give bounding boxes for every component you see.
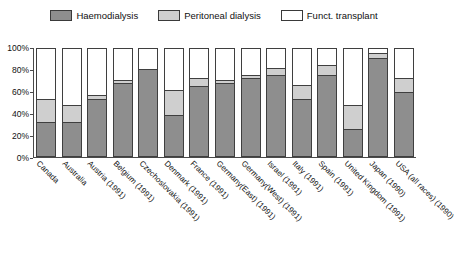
stacked-bar — [215, 48, 235, 157]
bar-segment-peritoneal-dialysis — [190, 78, 208, 87]
bar-segment-haemodialysis — [37, 122, 55, 156]
y-axis-tick-label: 40% — [12, 109, 29, 119]
stacked-bar — [62, 48, 82, 157]
y-axis-tick-label: 0% — [17, 153, 29, 163]
bar-segment-haemodialysis — [190, 86, 208, 156]
stacked-bar — [36, 48, 56, 157]
stacked-bar — [317, 48, 337, 157]
x-axis-label: Australia — [60, 159, 88, 187]
x-axis-labels: CanadaAustraliaAustria (1991)Belgium (19… — [33, 159, 416, 257]
y-axis-tick-label: 80% — [12, 65, 29, 75]
bar-segment-haemodialysis — [369, 58, 387, 156]
bar-segment-haemodialysis — [344, 129, 362, 156]
bar-segment-haemodialysis — [242, 78, 260, 156]
stacked-bar — [368, 48, 388, 157]
y-axis-tick-label: 100% — [7, 43, 29, 53]
bar-segment-haemodialysis — [318, 75, 336, 156]
stacked-bar — [164, 48, 184, 157]
bar-segment-peritoneal-dialysis — [395, 78, 413, 92]
bar-group — [34, 48, 416, 157]
legend-item-label: Haemodialysis — [76, 10, 138, 21]
legend-swatch-haemodialysis — [50, 10, 72, 21]
bar-segment-peritoneal-dialysis — [63, 105, 81, 122]
legend-item: Funct. transplant — [281, 10, 378, 21]
x-axis-label: Canada — [35, 159, 61, 185]
legend-swatch-funct-transplant — [281, 10, 303, 21]
legend-item-label: Peritoneal dialysis — [184, 10, 261, 21]
stacked-bar — [343, 48, 363, 157]
bar-segment-haemodialysis — [216, 83, 234, 156]
bar-segment-haemodialysis — [267, 75, 285, 156]
stacked-bar — [138, 48, 158, 157]
bar-segment-peritoneal-dialysis — [318, 65, 336, 75]
bar-segment-haemodialysis — [114, 83, 132, 156]
legend-item-label: Funct. transplant — [307, 10, 378, 21]
legend-swatch-peritoneal-dialysis — [158, 10, 180, 21]
legend-item: Peritoneal dialysis — [158, 10, 261, 21]
bar-segment-haemodialysis — [139, 69, 157, 156]
stacked-bar — [113, 48, 133, 157]
bar-segment-haemodialysis — [293, 99, 311, 156]
stacked-bar — [241, 48, 261, 157]
y-axis: 0%20%40%60%80%100% — [0, 48, 33, 158]
stacked-bar — [87, 48, 107, 157]
bar-segment-peritoneal-dialysis — [37, 99, 55, 121]
chart-legend: HaemodialysisPeritoneal dialysisFunct. t… — [0, 10, 428, 21]
bar-segment-peritoneal-dialysis — [165, 90, 183, 116]
bar-segment-haemodialysis — [395, 92, 413, 156]
bar-segment-peritoneal-dialysis — [344, 105, 362, 130]
legend-item: Haemodialysis — [50, 10, 138, 21]
stacked-bar — [266, 48, 286, 157]
bar-segment-peritoneal-dialysis — [293, 85, 311, 99]
bar-segment-haemodialysis — [165, 115, 183, 156]
y-axis-tick-label: 20% — [12, 131, 29, 141]
stacked-bar — [189, 48, 209, 157]
bar-segment-haemodialysis — [88, 99, 106, 156]
plot-area — [33, 48, 416, 158]
stacked-bar — [394, 48, 414, 157]
bar-segment-haemodialysis — [63, 122, 81, 156]
stacked-bar — [292, 48, 312, 157]
y-axis-tick-label: 60% — [12, 87, 29, 97]
